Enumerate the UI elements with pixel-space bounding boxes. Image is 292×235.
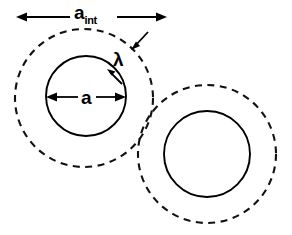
lambda-outer-arrow — [131, 32, 148, 50]
lambda-label: λ — [113, 49, 124, 71]
a-int-label-base: a — [74, 2, 84, 23]
a-int-label: aint — [74, 2, 97, 26]
right-solid-circle — [164, 111, 250, 197]
right-dashed-circle — [138, 85, 276, 223]
a-label: a — [81, 87, 92, 109]
a-int-label-subscript: int — [84, 14, 97, 26]
particle-interaction-diagram: aint a λ — [0, 0, 292, 235]
lambda-inner-arrow — [107, 69, 122, 84]
diagram-canvas — [0, 0, 292, 235]
